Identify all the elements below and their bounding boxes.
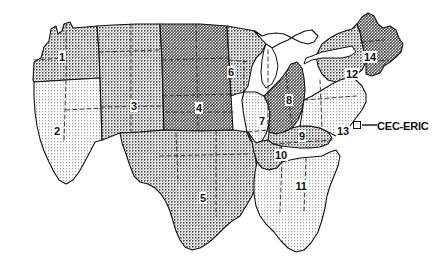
region-label-10: 10 [274,149,288,161]
region-label-9: 9 [298,130,306,142]
region-label-4: 4 [195,102,203,114]
region-label-13: 13 [336,125,350,137]
region-label-11: 11 [294,180,307,192]
region-label-12: 12 [345,68,359,80]
map-graphic [0,0,439,272]
cec-eric-site-marker [353,121,361,129]
region-label-6: 6 [227,66,235,78]
region-shape-5 [120,130,258,250]
region-label-2: 2 [53,125,61,137]
region-label-8: 8 [285,94,293,106]
region-shape-3 [97,24,164,140]
us-region-map: 1 2 3 4 5 6 7 8 9 10 11 12 13 14 CEC-ERI… [0,0,439,272]
region-label-14: 14 [363,51,377,63]
lake-michigan [261,44,278,88]
region-label-5: 5 [199,192,207,204]
cec-eric-label: CEC-ERIC [377,120,429,132]
region-shape-2 [34,78,102,184]
region-label-7: 7 [258,115,266,127]
region-label-1: 1 [58,51,66,63]
region-label-3: 3 [130,100,138,112]
region-shape-1 [33,22,100,82]
